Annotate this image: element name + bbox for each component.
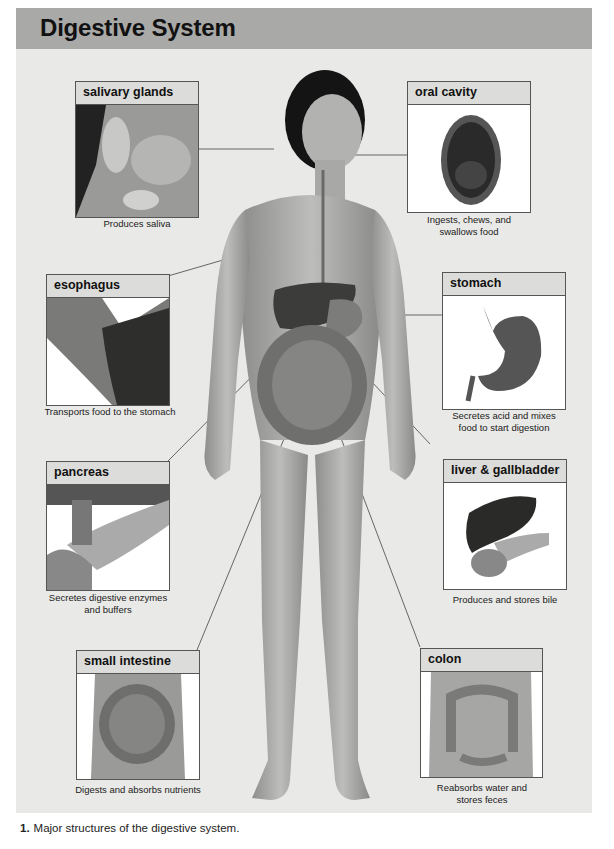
pancreas-image	[47, 485, 169, 590]
organ-caption-colon: Reabsorbs water and stores feces	[436, 782, 528, 806]
organ-box-liver-gallbladder: liver & gallbladder	[443, 459, 567, 590]
diagram-title: Digestive System	[40, 14, 236, 42]
figure-number: 1.	[20, 822, 30, 834]
colon-image	[421, 672, 542, 777]
organ-label: oral cavity	[415, 85, 477, 99]
salivary-glands-image	[76, 105, 198, 217]
organ-box-esophagus: esophagus	[46, 274, 170, 406]
organ-caption-esophagus: Transports food to the stomach	[40, 406, 180, 418]
organ-caption-small-intestine: Digests and absorbs nutrients	[70, 784, 206, 796]
oral-cavity-image	[408, 105, 530, 212]
left-leg	[252, 440, 308, 800]
esophagus-image	[47, 298, 169, 405]
organ-label: pancreas	[54, 465, 109, 479]
organ-box-stomach: stomach	[442, 272, 566, 410]
organ-caption-pancreas: Secretes digestive enzymes and buffers	[42, 592, 174, 616]
organ-box-salivary-glands: salivary glands	[75, 81, 199, 218]
organ-box-pancreas: pancreas	[46, 461, 170, 591]
organ-label: liver & gallbladder	[451, 463, 559, 477]
figure-caption-text: Major structures of the digestive system…	[34, 822, 240, 834]
human-body-figure	[190, 60, 430, 815]
organ-caption-stomach: Secretes acid and mixes food to start di…	[446, 410, 562, 434]
organ-box-small-intestine: small intestine	[76, 650, 200, 780]
organ-caption-liver-gallbladder: Produces and stores bile	[443, 594, 567, 606]
organ-caption-oral-cavity: Ingests, chews, and swallows food	[410, 214, 528, 238]
organ-label: stomach	[450, 276, 501, 290]
liver-gallbladder-image	[444, 483, 566, 589]
left-arm	[204, 210, 250, 480]
organ-box-oral-cavity: oral cavity	[407, 81, 531, 213]
face	[302, 94, 362, 170]
stomach-image	[443, 296, 565, 409]
organ-label: esophagus	[54, 278, 120, 292]
small-intestine-image	[77, 674, 199, 779]
figure-caption: 1.Major structures of the digestive syst…	[20, 822, 239, 834]
organ-box-colon: colon	[420, 648, 543, 778]
organ-caption-salivary-glands: Produces saliva	[75, 218, 199, 230]
organ-label: small intestine	[84, 654, 171, 668]
right-leg	[315, 440, 370, 800]
title-bar: Digestive System	[16, 8, 592, 49]
organ-label: colon	[428, 652, 461, 666]
organ-label: salivary glands	[83, 85, 173, 99]
